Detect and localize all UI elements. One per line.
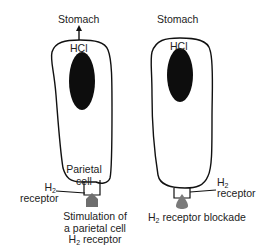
- right-stomach-label: Stomach: [157, 13, 198, 25]
- right-nucleus: [167, 48, 193, 102]
- receptor-word: receptor: [217, 188, 256, 199]
- parietal-label-line1: Parietal: [66, 163, 102, 175]
- left-stomach-label: Stomach: [58, 13, 99, 25]
- left-h2-receptor-label: H2 receptor: [20, 182, 56, 204]
- caption-rest: receptor blockade: [160, 211, 246, 223]
- caption-line3: H2 receptor: [50, 234, 140, 246]
- h-glyph: H: [148, 211, 156, 223]
- left-caption: Stimulation of a parietal cell H2 recept…: [50, 211, 140, 246]
- left-parietal-cell-label: Parietal cell: [66, 163, 102, 187]
- right-receptor-pointer: [190, 190, 216, 192]
- caption-line1: Stimulation of: [50, 211, 140, 223]
- right-parietal-cell: [151, 38, 216, 209]
- parietal-label-line2: cell: [66, 175, 102, 187]
- left-receptor-pointer: [56, 191, 85, 193]
- right-h2-receptor-label: H2 receptor: [217, 177, 256, 199]
- secretion-arrow-head-icon: [76, 25, 82, 31]
- receptor-word: receptor: [20, 193, 56, 204]
- caption-line3-rest: receptor: [80, 233, 121, 245]
- h-glyph: H: [69, 233, 77, 245]
- left-nucleus: [69, 52, 95, 110]
- right-hcl-label: HCl: [170, 40, 188, 52]
- left-hcl-label: HCl: [70, 42, 88, 54]
- right-caption: H2 receptor blockade: [148, 211, 246, 223]
- h2-blocker-antagonist-icon: [176, 194, 188, 209]
